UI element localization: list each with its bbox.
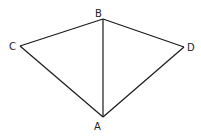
segment-ac: [20, 46, 103, 117]
segment-bd: [103, 19, 184, 47]
label-c: C: [9, 41, 16, 52]
label-a: A: [94, 121, 101, 132]
label-d: D: [187, 42, 195, 53]
label-b: B: [95, 8, 102, 19]
segment-da: [103, 47, 184, 117]
geometry-diagram: B C D A: [0, 0, 201, 139]
segment-cb: [20, 19, 103, 46]
